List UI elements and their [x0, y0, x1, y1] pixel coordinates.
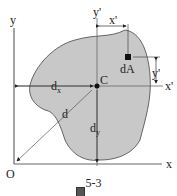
- d-label: d: [62, 107, 68, 121]
- figure-number: 5-3: [86, 176, 102, 190]
- centroid-label: C: [100, 73, 108, 87]
- x-prime-axis-label: x': [165, 79, 173, 93]
- dA-element: [125, 54, 131, 60]
- x-axis-label: x: [166, 157, 172, 171]
- centroid-point: [95, 84, 100, 89]
- figure-glyph-icon: 图: [76, 187, 85, 196]
- element-label: dA: [120, 62, 135, 76]
- x-prime-distance-label: x': [109, 13, 117, 27]
- y-prime-axis-label: y': [93, 5, 101, 19]
- figure-caption: 图5-3: [0, 176, 177, 196]
- shaded-area: [30, 30, 151, 160]
- parallel-axis-diagram: y x O y' x' x' y' dA C d dx dy: [0, 0, 177, 196]
- y-axis-label: y: [10, 13, 16, 27]
- y-prime-distance-label: y': [152, 66, 160, 80]
